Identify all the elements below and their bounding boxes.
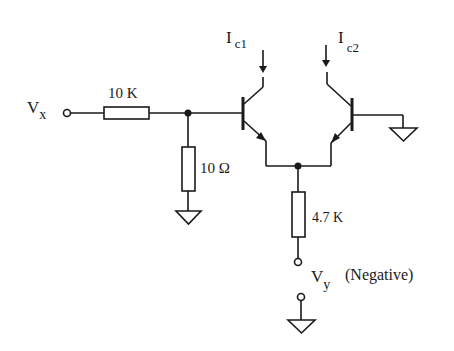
ic1-arrow-icon	[259, 50, 267, 73]
circuit-diagram: Vx 10 K 10 Ω Ic1	[0, 0, 454, 351]
ic1-label: Ic1	[226, 28, 247, 51]
input-resistor-label: 10 K	[108, 85, 138, 101]
ic2-label: Ic2	[338, 28, 359, 55]
shunt-resistor	[182, 113, 195, 211]
transistor-2	[327, 72, 403, 166]
shunt-resistor-label: 10 Ω	[200, 160, 230, 176]
ground-icon	[390, 128, 417, 141]
emitter-resistor	[292, 166, 305, 259]
ic2-arrow-icon	[322, 45, 330, 67]
vx-label: Vx	[27, 98, 46, 122]
input-resistor	[104, 107, 149, 119]
ground-icon	[176, 211, 201, 224]
transistor-1	[243, 77, 266, 166]
input-terminal	[64, 110, 105, 117]
output-note: (Negative)	[345, 266, 413, 284]
output-terminal	[295, 259, 302, 266]
ground-icon	[288, 320, 315, 333]
ground-terminal	[298, 294, 305, 321]
vy-label: Vy	[311, 267, 330, 292]
emitter-resistor-label: 4.7 K	[312, 210, 343, 225]
